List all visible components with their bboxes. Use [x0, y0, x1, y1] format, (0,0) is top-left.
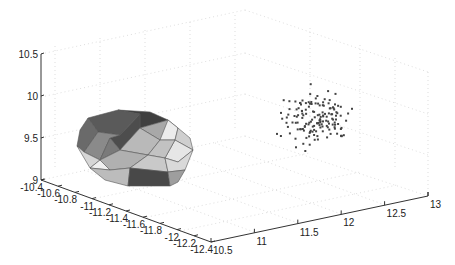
x-axis-ticks: 10.51111.51212.513 — [211, 192, 442, 256]
x-tick-label: 12.5 — [387, 208, 407, 219]
x-tick-label: 11 — [256, 236, 267, 247]
x-tick-label: 11.5 — [300, 227, 319, 238]
convex-hull-surface — [77, 110, 193, 186]
z-axis-ticks: 99.51010.5 — [19, 49, 44, 186]
y-tick-label: -11.8 — [140, 225, 162, 236]
z-tick-label: 9.5 — [24, 133, 38, 144]
3d-scatter-chart: 99.51010.5 -10.4-10.6-10.8-11-11.2-11.4-… — [0, 0, 455, 265]
x-tick-label: 10.5 — [213, 245, 233, 256]
y-axis-ticks: -10.4-10.6-10.8-11-11.2-11.4-11.6-11.8-1… — [20, 179, 215, 255]
y-tick-label: -10.8 — [54, 194, 77, 205]
y-tick-label: -12.4 — [190, 244, 213, 255]
x-tick-label: 13 — [430, 199, 442, 210]
z-tick-label: 10 — [27, 91, 39, 102]
z-tick-label: 10.5 — [19, 49, 39, 60]
x-tick-label: 12 — [343, 217, 355, 228]
scatter-point-cloud — [276, 83, 353, 152]
